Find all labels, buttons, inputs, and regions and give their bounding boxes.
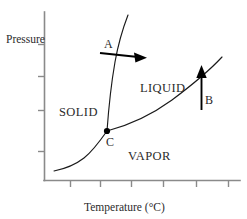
y-axis-ticks [38, 45, 44, 152]
arrow-a [100, 53, 147, 63]
region-label-liquid: LIQUID [140, 81, 185, 95]
triple-point-dot [104, 128, 110, 134]
point-label-c: C [106, 135, 114, 149]
arrow-a-shaft [100, 53, 138, 57]
point-label-b: B [205, 93, 213, 107]
point-label-a: A [104, 37, 113, 51]
phase-diagram-figure: Pressure Temperature (°C) SOLID LIQUID V… [0, 0, 247, 219]
arrow-a-head [134, 53, 147, 63]
arrow-b-head [196, 65, 206, 78]
region-label-solid: SOLID [59, 105, 98, 119]
region-label-vapor: VAPOR [128, 149, 171, 163]
y-axis-label: Pressure [6, 33, 45, 45]
x-axis-label: Temperature (°C) [84, 201, 165, 214]
fusion-curve [107, 15, 128, 131]
phase-boundary-curves [54, 15, 222, 171]
sublimation-curve [54, 131, 107, 171]
